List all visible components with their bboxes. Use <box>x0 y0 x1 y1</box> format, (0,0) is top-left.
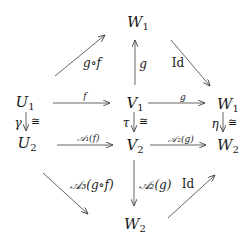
label-a2g-down: 𝒜₂(g) <box>139 179 172 191</box>
node-subscript: 2 <box>140 223 146 234</box>
node-v2: V2 <box>126 138 143 155</box>
commutative-diagram: W1 U1 V1 W1 U2 V2 W2 W2 g∘f g Id f g γ ≅… <box>0 0 250 244</box>
label-f: f <box>83 92 86 101</box>
label-a3gof: 𝒜₃(g∘f) <box>70 179 113 191</box>
node-base: W <box>217 95 232 113</box>
node-subscript: 1 <box>233 103 239 114</box>
node-base: W <box>124 215 139 233</box>
node-subscript: 2 <box>137 144 143 155</box>
node-base: V <box>126 136 137 154</box>
label-tau-iso: ≅ <box>139 116 148 127</box>
label-tau: τ <box>123 117 130 129</box>
label-eta-iso: ≅ <box>228 117 237 128</box>
label-eta: η <box>211 118 218 130</box>
node-w1-top: W1 <box>127 15 149 32</box>
node-subscript: 1 <box>143 21 149 32</box>
node-u1: U1 <box>15 95 34 112</box>
node-v1: V1 <box>126 96 143 113</box>
node-subscript: 1 <box>28 101 34 112</box>
label-a2g-row2: 𝒜₂(g) <box>168 135 193 144</box>
node-subscript: 2 <box>233 144 239 155</box>
node-w1-right: W1 <box>217 97 239 114</box>
label-id-top: Id <box>172 57 184 69</box>
node-w2-right: W2 <box>217 138 239 155</box>
node-base: U <box>17 134 30 152</box>
node-base: W <box>217 136 232 154</box>
node-subscript: 1 <box>137 102 143 113</box>
label-gamma: γ <box>14 117 21 129</box>
label-g-up: g <box>139 58 147 70</box>
node-w2-bottom: W2 <box>124 217 146 234</box>
label-a1f: 𝒜₁(f) <box>77 134 100 143</box>
label-g-row1: g <box>180 93 186 102</box>
label-gof: g∘f <box>83 57 101 69</box>
node-base: V <box>126 94 137 112</box>
label-gamma-iso: ≅ <box>31 116 40 127</box>
node-base: U <box>15 93 28 111</box>
node-base: W <box>127 13 142 31</box>
node-u2: U2 <box>17 136 36 153</box>
label-id-bottom: Id <box>182 178 194 190</box>
node-subscript: 2 <box>30 142 36 153</box>
